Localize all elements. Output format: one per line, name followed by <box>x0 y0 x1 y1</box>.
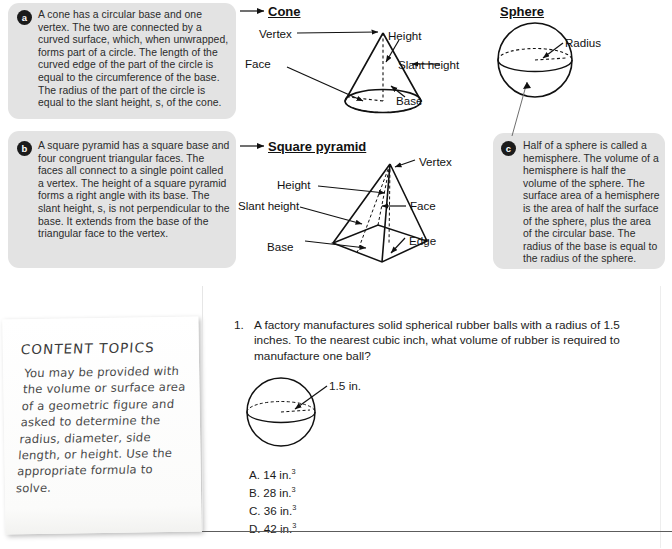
answer-choice-c[interactable]: C. 36 in.3 <box>249 500 296 518</box>
info-box-b: b A square pyramid has a square base and… <box>8 131 236 268</box>
answer-choice-b-value: 28 in. <box>263 486 291 499</box>
figure-title-sphere: Sphere <box>500 4 544 19</box>
answer-choice-c-letter: C. <box>249 504 261 517</box>
connector-line-sphere-to-box-c <box>512 82 527 136</box>
question-sphere-leader-line <box>295 386 327 409</box>
bottom-divider-rule <box>202 531 672 532</box>
cone-label-face: Face <box>245 57 271 70</box>
answer-choice-b[interactable]: B. 28 in.3 <box>249 482 296 500</box>
worksheet-page: a A cone has a circular base and one ver… <box>0 0 672 549</box>
pyramid-label-edge: Edge <box>409 234 436 247</box>
badge-c: c <box>501 141 516 156</box>
sphere-leader-lines <box>543 43 563 58</box>
figure-title-square-pyramid: Square pyramid <box>268 139 366 154</box>
answer-choice-d-letter: D. <box>249 522 261 535</box>
sphere-figure <box>498 23 572 97</box>
cone-label-vertex: Vertex <box>259 27 292 40</box>
answer-choice-b-exponent: 3 <box>292 485 296 494</box>
answer-choice-c-exponent: 3 <box>292 503 296 512</box>
pyramid-label-face: Face <box>410 199 436 212</box>
connector-arrowhead-box-c <box>523 82 531 89</box>
answer-choice-d-value: 42 in. <box>264 522 292 535</box>
info-box-c: c Half of a sphere is called a hemispher… <box>493 133 665 269</box>
question-sphere-radius-label: 1.5 in. <box>329 379 361 393</box>
badge-b: b <box>17 141 32 156</box>
right-margin-rule <box>660 286 661 548</box>
info-box-a: a A cone has a circular base and one ver… <box>8 3 236 119</box>
answer-choice-b-letter: B. <box>249 486 260 499</box>
content-topics-title: CONTENT TOPICS <box>20 339 155 357</box>
content-topics-body: You may be provided with the volume or s… <box>15 363 192 497</box>
badge-a: a <box>17 10 32 25</box>
answer-choice-a-value: 14 in. <box>263 468 291 481</box>
info-box-b-text: A square pyramid has a square base and f… <box>38 140 231 241</box>
pyramid-leader-lines <box>300 160 415 253</box>
pyramid-label-base: Base <box>267 240 293 253</box>
cone-label-slant-height: Slant height <box>398 58 459 71</box>
left-margin-rule <box>202 286 203 531</box>
sphere-label-radius: Radius <box>565 36 601 49</box>
answer-choice-d-exponent: 3 <box>292 521 296 530</box>
content-topics-note: CONTENT TOPICS You may be provided with … <box>2 316 201 534</box>
question-sphere-figure <box>247 378 315 446</box>
cone-label-height: Height <box>388 29 422 42</box>
answer-choice-a-exponent: 3 <box>292 467 296 476</box>
answer-choices: A. 14 in.3 B. 28 in.3 C. 36 in.3 D. 42 i… <box>249 464 296 536</box>
pyramid-label-slant-height: Slant height <box>238 199 299 212</box>
content-topics-note-surface: CONTENT TOPICS You may be provided with … <box>2 316 201 534</box>
answer-choice-d[interactable]: D. 42 in.3 <box>249 518 296 536</box>
pyramid-label-height: Height <box>277 178 311 191</box>
question-text: A factory manufactures solid spherical r… <box>254 318 659 364</box>
info-box-a-text: A cone has a circular base and one verte… <box>38 9 230 110</box>
figure-title-cone: Cone <box>268 4 301 19</box>
square-pyramid-figure <box>333 164 427 262</box>
answer-choice-c-value: 36 in. <box>264 504 292 517</box>
question-number: 1. <box>234 318 244 332</box>
pyramid-label-vertex: Vertex <box>419 155 452 168</box>
answer-choice-a[interactable]: A. 14 in.3 <box>249 464 296 482</box>
info-box-c-text: Half of a sphere is called a hemisphere.… <box>523 140 661 266</box>
answer-choice-a-letter: A. <box>249 468 260 481</box>
cone-label-base: Base <box>396 94 422 107</box>
